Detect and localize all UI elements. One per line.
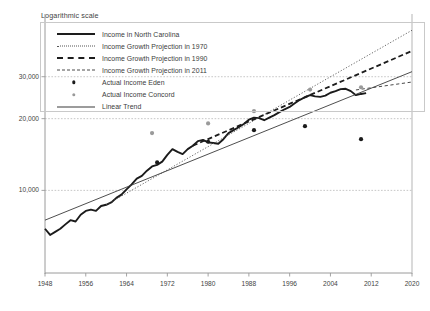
scatter-point-0-4: [359, 137, 363, 141]
legend-key-icon: [55, 102, 97, 112]
legend-marker-dot-gray-icon: [72, 93, 75, 96]
scatter-point-0-3: [303, 124, 307, 128]
x-axis-tick-label: 1964: [111, 280, 143, 287]
x-axis-tick-label: 1948: [29, 280, 61, 287]
y-axis-tick-label: 20,000: [4, 115, 39, 122]
legend-item-5[interactable]: Actual Income Concord: [55, 89, 175, 101]
chart-legend: Income in North CarolinaIncome Growth Pr…: [40, 22, 425, 112]
legend-key-icon: [55, 65, 97, 75]
legend-item-0[interactable]: Income in North Carolina: [55, 28, 179, 40]
y-axis-tick-label: 10,000: [4, 186, 39, 193]
x-axis-tick-label: 1980: [192, 280, 224, 287]
x-axis-tick-label: 1972: [151, 280, 183, 287]
x-axis-tick-label: 1996: [274, 280, 306, 287]
legend-marker-solid-thick-icon: [57, 33, 95, 35]
legend-key-icon: [55, 41, 97, 51]
scatter-point-0-1: [206, 140, 210, 144]
legend-item-6[interactable]: Linear Trend: [55, 101, 141, 113]
legend-marker-dot-dark-icon: [72, 81, 75, 84]
legend-key-icon: [55, 77, 97, 87]
y-axis-tick-label: 30,000: [4, 73, 39, 80]
x-axis-tick-label: 2020: [396, 280, 428, 287]
chart-container: Logarithmic scale Income in North Caroli…: [0, 0, 430, 311]
legend-item-label: Income Growth Projection in 2011: [102, 67, 207, 74]
legend-item-label: Linear Trend: [102, 103, 141, 110]
legend-item-1[interactable]: Income Growth Projection in 1970: [55, 40, 207, 52]
x-axis-tick-label: 2012: [355, 280, 387, 287]
legend-marker-dashed-thin-icon: [57, 70, 95, 71]
legend-item-label: Income Growth Projection in 1990: [102, 55, 207, 62]
legend-key-icon: [55, 29, 97, 39]
legend-marker-solid-thin-icon: [57, 106, 95, 107]
scatter-point-0-2: [252, 128, 256, 132]
legend-item-4[interactable]: Actual Income Eden: [55, 76, 165, 88]
legend-item-label: Actual Income Eden: [102, 79, 165, 86]
legend-item-label: Income in North Carolina: [102, 31, 179, 38]
scatter-point-1-0: [150, 131, 154, 135]
legend-item-3[interactable]: Income Growth Projection in 2011: [55, 64, 207, 76]
x-axis-tick-label: 1956: [70, 280, 102, 287]
scatter-point-1-1: [206, 121, 210, 125]
scatter-point-0-0: [155, 160, 159, 164]
legend-marker-dotted-icon: [57, 46, 95, 47]
x-axis-tick-label: 1988: [233, 280, 265, 287]
legend-item-label: Income Growth Projection in 1970: [102, 43, 207, 50]
x-axis-tick-label: 2004: [314, 280, 346, 287]
legend-item-label: Actual Income Concord: [102, 91, 175, 98]
legend-key-icon: [55, 53, 97, 63]
legend-marker-dashed-thick-icon: [57, 57, 95, 59]
legend-key-icon: [55, 90, 97, 100]
legend-item-2[interactable]: Income Growth Projection in 1990: [55, 52, 207, 64]
